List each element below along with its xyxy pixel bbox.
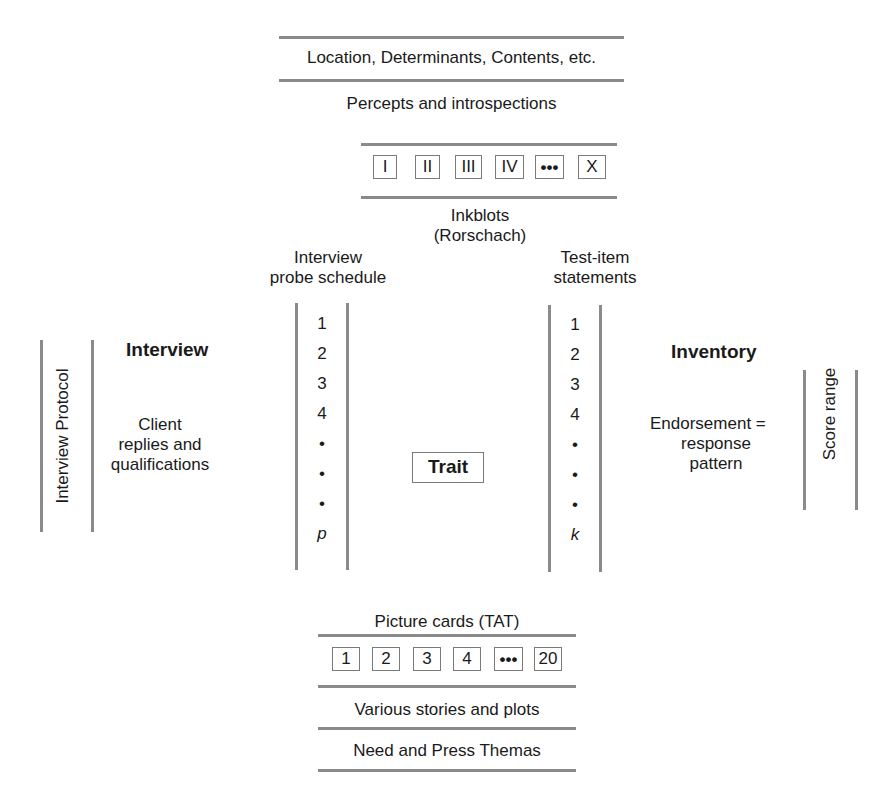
interview-item: p [307,519,337,549]
inventory-item-list: 1 2 3 4 • • • k [560,310,590,550]
interview-schedule-left-rule [295,303,298,570]
interview-item: 4 [307,399,337,429]
rorschach-card: I [373,155,397,179]
interview-item-list: 1 2 3 4 • • • p [307,309,337,549]
interview-method-label: Interview [126,340,208,360]
rorschach-card: X [578,155,606,179]
rorschach-stimulus-label: Inkblots (Rorschach) [380,206,580,246]
inventory-schedule-right-rule [599,305,602,572]
inventory-item: 3 [560,370,590,400]
tat-card: 20 [534,647,562,671]
rorschach-cards-bottom-rule [361,196,617,199]
score-range-label: Score range [820,362,840,466]
rorschach-card-ellipsis: ••• [535,155,564,179]
inventory-schedule-label: Test-item statements [520,248,670,288]
interview-response-label: Client replies and qualifications [90,415,230,475]
tat-response-label: Various stories and plots [318,700,576,720]
tat-card: 1 [332,647,360,671]
rorschach-card: II [415,155,440,179]
rorschach-response-label: Percepts and introspections [279,94,624,114]
interview-protocol-right-rule [91,340,94,532]
rorschach-top-rule [279,36,624,39]
inventory-response-label: Endorsement = response pattern [648,414,784,474]
rorschach-card: III [455,155,482,179]
interview-schedule-label: Interview probe schedule [258,248,398,288]
tat-cards-bottom-rule [318,685,576,688]
inventory-item: 2 [560,340,590,370]
tat-stimulus-label: Picture cards (TAT) [318,612,576,632]
tat-top-rule [318,634,576,637]
inventory-item: k [560,520,590,550]
interview-item: 2 [307,339,337,369]
rorschach-card: IV [495,155,524,179]
trait-box: Trait [412,452,484,483]
inventory-item: 4 [560,400,590,430]
tat-card: 2 [372,647,400,671]
interview-protocol-left-rule [40,340,43,532]
score-range-right-rule [855,370,858,510]
tat-response-rule [318,727,576,730]
rorschach-cards-top-rule [361,143,617,146]
interview-item: 3 [307,369,337,399]
inventory-item: 1 [560,310,590,340]
tat-card: 4 [453,647,481,671]
inventory-item: • [560,460,590,490]
interview-item: • [307,459,337,489]
inventory-method-label: Inventory [671,342,757,362]
tat-card-ellipsis: ••• [494,647,523,671]
rorschach-middle-rule [279,79,624,82]
interview-item: • [307,429,337,459]
inventory-schedule-left-rule [548,305,551,572]
interview-schedule-right-rule [346,303,349,570]
interview-item: 1 [307,309,337,339]
rorschach-scoring-label: Location, Determinants, Contents, etc. [279,48,624,68]
inventory-item: • [560,490,590,520]
tat-scoring-label: Need and Press Themas [318,741,576,761]
tat-card: 3 [413,647,441,671]
inventory-item: • [560,430,590,460]
interview-protocol-label: Interview Protocol [53,351,73,521]
interview-item: • [307,489,337,519]
score-range-left-rule [803,370,806,510]
tat-bottom-rule [318,769,576,772]
